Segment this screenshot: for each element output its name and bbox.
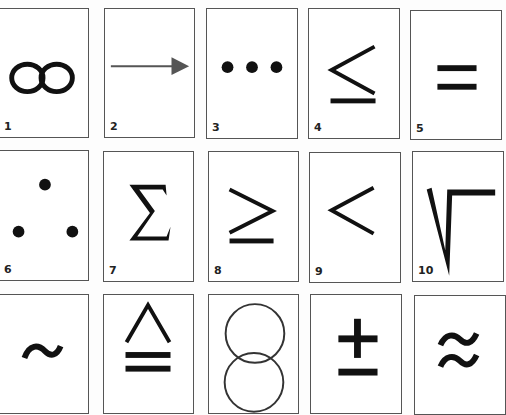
- card-number: 1: [4, 120, 12, 133]
- card-6[interactable]: 6: [0, 150, 89, 281]
- card-4[interactable]: 4: [308, 8, 400, 139]
- card-7[interactable]: 7: [103, 151, 194, 282]
- greater-than-or-equal-icon: [209, 152, 298, 281]
- ellipsis-icon: [207, 9, 297, 138]
- right-arrow-icon: [105, 9, 194, 137]
- card-14[interactable]: [310, 294, 402, 414]
- card-number: 8: [214, 264, 222, 277]
- card-11[interactable]: [0, 294, 89, 414]
- card-3[interactable]: 3: [206, 8, 298, 139]
- infinity-icon: [0, 9, 88, 137]
- tilde-icon: [0, 295, 88, 413]
- card-number: 3: [212, 121, 220, 134]
- less-than-icon: [310, 153, 400, 282]
- card-10[interactable]: 10: [412, 151, 504, 282]
- plus-minus-icon: [311, 295, 401, 413]
- card-8[interactable]: 8: [208, 151, 299, 282]
- equals-icon: [411, 11, 501, 139]
- less-than-or-equal-icon: [309, 9, 399, 138]
- card-number: 9: [315, 265, 323, 278]
- card-9[interactable]: 9: [309, 152, 401, 283]
- card-12[interactable]: [103, 294, 194, 414]
- delta-equal-icon: [104, 295, 193, 413]
- card-number: 4: [314, 121, 322, 134]
- approximately-equal-icon: [415, 296, 505, 414]
- card-number: 5: [416, 122, 424, 135]
- card-number: 2: [110, 120, 118, 133]
- card-1[interactable]: 1: [0, 8, 89, 138]
- card-number: 7: [109, 264, 117, 277]
- card-15[interactable]: [414, 295, 506, 415]
- card-2[interactable]: 2: [104, 8, 195, 138]
- card-13[interactable]: [208, 294, 299, 414]
- card-number: 10: [418, 264, 433, 277]
- therefore-dots-icon: [0, 151, 88, 280]
- square-root-icon: [413, 152, 503, 281]
- overlapping-circles-icon: [209, 295, 298, 413]
- card-5[interactable]: 5: [410, 10, 502, 140]
- card-number: 6: [4, 263, 12, 276]
- sigma-icon: [104, 152, 193, 281]
